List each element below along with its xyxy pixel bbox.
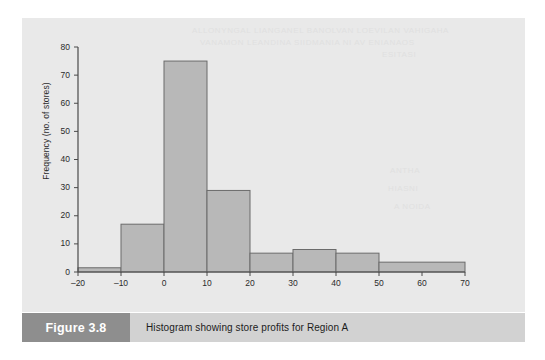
x-axis-tick-label: 20 [235,279,265,288]
histogram-bar [293,250,336,273]
y-axis-tick-label: 0 [48,268,70,277]
y-axis-tick-label: 20 [48,211,70,220]
x-axis-tick-label: 70 [450,279,480,288]
y-axis-tick-label: 50 [48,127,70,136]
y-axis-tick-label: 40 [48,155,70,164]
histogram-bar [250,253,293,272]
figure-number-box: Figure 3.8 [22,313,130,342]
figure-caption-bar: Figure 3.8 Histogram showing store profi… [22,313,525,342]
histogram-bar [336,253,379,272]
y-axis-tick-label: 80 [48,43,70,52]
histogram-bar [78,268,121,272]
x-axis-tick-label: 30 [278,279,308,288]
y-axis-tick-label: 10 [48,239,70,248]
x-axis-tick-label: 60 [407,279,437,288]
y-axis-tick-label: 30 [48,183,70,192]
x-axis-tick-label: –20 [63,279,93,288]
y-axis-tick-label: 60 [48,99,70,108]
histogram-svg [22,18,525,312]
figure-number-label: Figure 3.8 [45,321,106,335]
histogram-plot: 01020304050607080 –20–10010203040506070 [22,18,525,312]
x-axis-tick-label: 50 [364,279,394,288]
histogram-bar [207,190,250,272]
x-axis-tick-label: 40 [321,279,351,288]
y-axis-tick-label: 70 [48,71,70,80]
x-axis-tick-label: 10 [192,279,222,288]
bars-group [78,61,465,272]
figure-caption-text: Histogram showing store profits for Regi… [146,313,348,342]
x-axis-tick-label: 0 [149,279,179,288]
histogram-bar [121,224,164,272]
x-axis-tick-label: –10 [106,279,136,288]
histogram-bar [164,61,207,272]
figure-panel: ALLONYNGAL LIANGANEL BANOLVAN LOEVILAN V… [22,18,525,312]
histogram-bar [379,262,465,272]
